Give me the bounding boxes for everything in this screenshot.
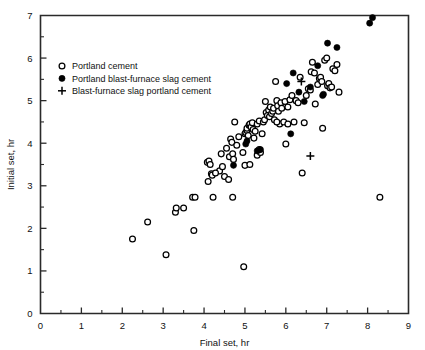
data-point <box>290 70 296 76</box>
x-tick-label: 3 <box>161 320 166 331</box>
data-point <box>230 194 236 200</box>
data-point <box>288 131 294 137</box>
data-point <box>332 68 338 74</box>
x-axis-title: Final set, hr <box>200 337 250 348</box>
y-tick-label: 6 <box>27 53 32 64</box>
data-point <box>252 128 258 134</box>
data-point <box>315 63 321 69</box>
data-point <box>262 99 268 105</box>
data-point <box>279 105 285 111</box>
data-point <box>299 170 305 176</box>
data-point <box>213 170 219 176</box>
legend-label: Blast-furnace slag portland cement <box>72 86 212 96</box>
data-point <box>307 84 313 90</box>
data-point <box>244 138 250 144</box>
data-point <box>319 79 325 85</box>
data-point <box>234 142 240 148</box>
data-point <box>369 15 375 21</box>
data-point <box>145 219 151 225</box>
data-point <box>192 194 198 200</box>
data-point <box>230 162 236 168</box>
data-point <box>285 104 291 110</box>
data-point <box>320 125 326 131</box>
data-point <box>163 252 169 258</box>
data-point <box>296 89 302 95</box>
x-tick-label: 1 <box>79 320 84 331</box>
chart-canvas: 012345678901234567Final set, hrInitial s… <box>0 0 425 350</box>
legend-marker-plus <box>58 87 66 95</box>
legend-marker-open-circle <box>59 63 65 69</box>
data-point <box>210 194 216 200</box>
data-point <box>295 100 301 106</box>
data-point <box>329 84 335 90</box>
legend-label: Portland cement <box>72 61 138 71</box>
data-point <box>181 205 187 211</box>
data-point <box>312 70 318 76</box>
data-point <box>230 151 236 157</box>
x-tick-label: 4 <box>201 320 206 331</box>
legend-label: Portland blast-furnace slag cement <box>72 74 212 84</box>
data-point <box>259 131 265 137</box>
data-point <box>226 177 232 183</box>
data-point <box>310 59 316 65</box>
data-point <box>205 179 211 185</box>
data-point <box>324 55 330 61</box>
data-point <box>301 120 307 126</box>
y-tick-label: 3 <box>27 180 32 191</box>
y-tick-labels: 01234567 <box>27 10 32 319</box>
data-point <box>301 98 307 104</box>
data-point <box>312 101 318 107</box>
y-tick-label: 1 <box>27 265 32 276</box>
data-point <box>241 264 247 270</box>
x-tick-label: 2 <box>120 320 125 331</box>
data-point <box>291 119 297 125</box>
y-tick-label: 2 <box>27 223 32 234</box>
data-point <box>334 62 340 68</box>
data-point <box>130 236 136 242</box>
data-point <box>224 145 230 151</box>
data-point <box>273 79 279 85</box>
y-axis-title: Initial set, hr <box>5 139 16 190</box>
data-point <box>240 150 246 156</box>
data-point <box>191 228 197 234</box>
data-point <box>220 164 226 170</box>
x-tick-label: 8 <box>365 320 370 331</box>
data-point <box>336 89 342 95</box>
legend: Portland cementPortland blast-furnace sl… <box>58 61 212 96</box>
data-point <box>251 135 257 141</box>
data-point <box>173 205 179 211</box>
data-point <box>245 133 251 139</box>
data-point <box>218 151 224 157</box>
y-tick-label: 7 <box>27 10 32 21</box>
legend-marker-filled-circle <box>59 75 65 81</box>
data-point <box>236 134 242 140</box>
data-point <box>247 162 253 168</box>
data-point <box>324 40 330 46</box>
y-tick-label: 0 <box>27 308 32 319</box>
data-point <box>367 20 373 26</box>
x-tick-label: 0 <box>38 320 43 331</box>
y-tick-label: 5 <box>27 95 32 106</box>
x-tick-label: 6 <box>283 320 288 331</box>
data-point <box>274 119 280 125</box>
data-point <box>207 162 213 168</box>
x-tick-label: 7 <box>324 320 329 331</box>
data-point <box>303 93 309 99</box>
data-point <box>377 194 383 200</box>
data-point <box>306 152 314 160</box>
data-point <box>320 91 326 97</box>
x-tick-label: 9 <box>406 320 411 331</box>
data-point <box>283 141 289 147</box>
x-tick-labels: 0123456789 <box>38 320 411 331</box>
data-point <box>289 93 295 99</box>
series-filled-circle <box>230 15 375 169</box>
data-point <box>297 74 303 80</box>
scatter-plot-figure: 012345678901234567Final set, hrInitial s… <box>0 0 425 350</box>
data-point <box>232 119 238 125</box>
data-point <box>257 147 263 153</box>
x-tick-label: 5 <box>242 320 247 331</box>
y-tick-label: 4 <box>27 138 32 149</box>
data-point <box>284 81 290 87</box>
data-point <box>334 44 340 50</box>
data-point <box>231 156 237 162</box>
